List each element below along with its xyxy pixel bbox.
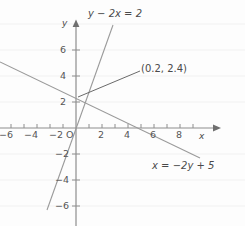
y-tick-label-4: 4	[60, 70, 66, 81]
x-tick-label-neg-2: −2	[49, 129, 63, 140]
x-tick-label-neg-4: −4	[24, 129, 38, 140]
gridlines	[0, 24, 245, 206]
x-axis-label: x	[199, 131, 204, 141]
x-tick-label-neg-6: −6	[0, 129, 13, 140]
origin-label: O	[66, 129, 73, 140]
coordinate-plane-graph	[0, 0, 245, 226]
y-axis-label: y	[62, 18, 67, 28]
x-tick-label-6: 6	[150, 129, 156, 140]
y-tick-label-neg-6: −6	[55, 200, 69, 211]
point-leader-line	[78, 71, 140, 97]
x-tick-label-4: 4	[124, 129, 130, 140]
y-tick-label-neg-4: −4	[55, 174, 69, 185]
x-tick-label-2: 2	[98, 129, 104, 140]
equation-label-bottom: x = −2y + 5	[152, 160, 214, 171]
y-tick-label-neg-2: −2	[55, 148, 69, 159]
y-tick-label-6: 6	[60, 44, 66, 55]
x-axis-arrowhead	[213, 124, 221, 131]
equation-label-top: y − 2x = 2	[88, 8, 142, 19]
intersection-point-label: (0.2, 2.4)	[141, 63, 187, 74]
y-tick-label-2: 2	[60, 96, 66, 107]
x-tick-label-8: 8	[176, 129, 182, 140]
y-axis-arrowhead	[73, 20, 80, 28]
